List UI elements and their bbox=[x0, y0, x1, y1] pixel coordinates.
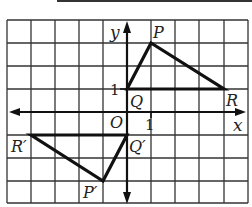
x-axis-left-arrow-icon bbox=[9, 108, 20, 116]
point-label-p: P bbox=[152, 23, 164, 42]
y-tick-label: 1 bbox=[110, 81, 120, 99]
point-label-r: R bbox=[225, 91, 238, 110]
point-label-r-prime: R′ bbox=[10, 137, 27, 156]
origin-label: O bbox=[110, 113, 123, 132]
point-label-q-prime: Q′ bbox=[129, 137, 146, 156]
point-label-p-prime: P′ bbox=[82, 183, 98, 202]
coordinate-graph: y x O 1 1 P Q R P′ Q′ R′ bbox=[0, 0, 252, 207]
x-axis-label: x bbox=[233, 115, 243, 135]
y-axis-down-arrow-icon bbox=[123, 192, 131, 204]
y-axis-label: y bbox=[109, 22, 120, 42]
point-label-q: Q bbox=[130, 92, 143, 111]
x-tick-label: 1 bbox=[145, 116, 155, 134]
y-axis-up-arrow-icon bbox=[123, 21, 131, 33]
